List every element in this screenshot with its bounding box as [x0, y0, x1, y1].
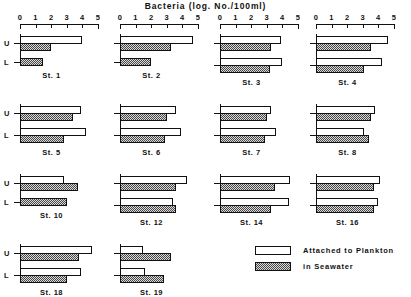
depth-tick-l	[214, 65, 221, 66]
legend-item-in-seawater: in Seawater	[255, 260, 407, 276]
x-axis-tick	[347, 24, 348, 28]
x-axis-tick	[251, 24, 252, 28]
bacteria-bar-chart-figure: Bacteria (log. No./100ml) 012345ULSt. 10…	[0, 0, 411, 297]
station-label: St. 1	[0, 71, 103, 80]
station-label: St. 10	[0, 211, 103, 220]
bar-seawater	[20, 253, 79, 261]
depth-tick-l	[214, 135, 221, 136]
depth-tick-l	[14, 135, 21, 136]
station-label: St. 19	[100, 288, 203, 297]
x-axis-tick	[120, 24, 121, 29]
depth-label-l: L	[4, 197, 9, 206]
bar-seawater	[120, 205, 176, 213]
bar-seawater	[316, 113, 371, 121]
x-axis-tick-label: 4	[280, 13, 285, 22]
station-panel: St. 14	[200, 150, 303, 222]
x-axis-tick-label: 2	[249, 13, 254, 22]
bar-seawater	[120, 253, 171, 261]
bar-seawater	[20, 183, 78, 191]
depth-tick-l	[114, 205, 121, 206]
depth-tick-u	[14, 43, 21, 44]
depth-tick-l	[310, 135, 317, 136]
depth-tick-u	[310, 113, 317, 114]
bar-seawater	[220, 135, 265, 143]
depth-tick-u	[114, 183, 121, 184]
x-axis-tick-label: 4	[80, 13, 85, 22]
station-panel: 012345St. 3	[200, 10, 303, 82]
x-axis-tick	[316, 24, 317, 29]
bar-seawater	[120, 113, 167, 121]
depth-label-l: L	[4, 131, 9, 140]
bar-seawater	[120, 183, 176, 191]
bar-seawater	[120, 135, 165, 143]
legend-label-attached: Attached to Plankton	[303, 246, 394, 255]
panel-baseline	[220, 34, 221, 73]
chart-legend: Attached to Plankton in Seawater	[255, 244, 407, 276]
depth-tick-l	[310, 65, 317, 66]
station-panel: ULSt. 18	[0, 220, 103, 292]
depth-label-u: U	[4, 249, 9, 258]
x-axis-tick	[136, 24, 137, 28]
panel-baseline	[220, 174, 221, 213]
x-axis-tick	[220, 24, 221, 29]
x-axis-tick	[98, 24, 99, 29]
x-axis-tick-label: 0	[18, 13, 23, 22]
bar-seawater	[20, 113, 73, 121]
depth-tick-u	[14, 253, 21, 254]
x-axis-tick-label: 2	[149, 13, 154, 22]
bar-seawater	[316, 43, 371, 51]
legend-swatch-attached-icon	[255, 246, 291, 255]
x-axis-line	[120, 24, 198, 25]
x-axis-tick-label: 0	[118, 13, 123, 22]
depth-tick-u	[14, 183, 21, 184]
x-axis-tick	[82, 24, 83, 28]
station-label: St. 2	[100, 71, 203, 80]
bar-seawater	[220, 183, 275, 191]
depth-tick-u	[214, 113, 221, 114]
x-axis-tick	[167, 24, 168, 28]
station-panel: ULSt. 10	[0, 150, 103, 222]
station-panel: ULSt. 5	[0, 80, 103, 152]
depth-tick-l	[14, 62, 21, 63]
depth-label-l: L	[4, 57, 9, 66]
x-axis-tick	[51, 24, 52, 28]
depth-label-u: U	[4, 109, 9, 118]
x-axis: 012345	[220, 24, 298, 34]
station-label: St. 14	[200, 218, 303, 227]
panel-baseline	[20, 104, 21, 143]
depth-tick-u	[114, 113, 121, 114]
depth-tick-l	[310, 205, 317, 206]
bar-seawater	[316, 205, 374, 213]
station-label: St. 16	[296, 218, 399, 227]
bar-seawater	[220, 113, 267, 121]
station-panel: St. 7	[200, 80, 303, 152]
station-label: St. 18	[0, 288, 103, 297]
depth-tick-l	[214, 205, 221, 206]
bar-seawater	[20, 275, 67, 283]
station-panel: St. 19	[100, 220, 203, 292]
bar-seawater	[120, 275, 164, 283]
bar-seawater	[20, 58, 43, 66]
panel-baseline	[120, 174, 121, 213]
bar-seawater	[120, 43, 171, 51]
x-axis-tick	[236, 24, 237, 28]
depth-tick-u	[214, 43, 221, 44]
x-axis-tick-label: 3	[265, 13, 270, 22]
legend-label-seawater: in Seawater	[303, 262, 354, 271]
panel-baseline	[20, 244, 21, 283]
depth-tick-l	[114, 62, 121, 63]
x-axis-tick-label: 0	[314, 13, 319, 22]
x-axis: 012345	[20, 24, 98, 34]
bar-seawater	[220, 205, 271, 213]
depth-tick-u	[114, 43, 121, 44]
station-panel: St. 8	[296, 80, 404, 152]
x-axis-tick-label: 2	[49, 13, 54, 22]
depth-label-l: L	[4, 271, 9, 280]
panel-baseline	[316, 174, 317, 213]
x-axis-tick	[182, 24, 183, 28]
depth-tick-u	[214, 183, 221, 184]
depth-label-u: U	[4, 39, 9, 48]
x-axis: 012345	[316, 24, 394, 34]
station-panel: St. 16	[296, 150, 404, 222]
bar-seawater	[220, 43, 271, 51]
